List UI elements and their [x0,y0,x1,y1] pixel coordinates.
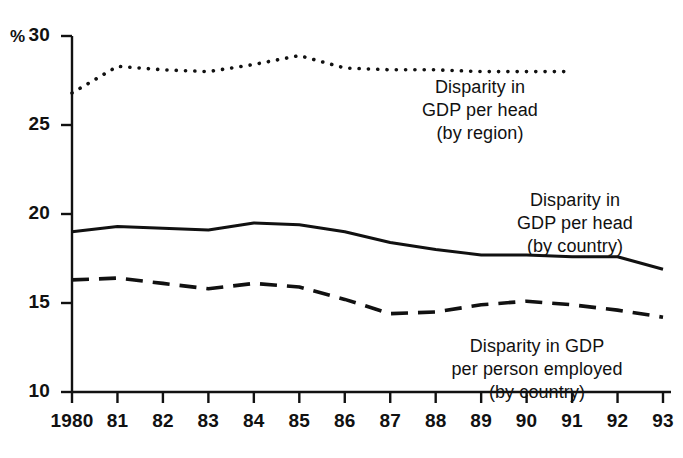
annotation-country-head-line-2: GDP per head [517,212,633,235]
annotation-region-line-3: (by region) [422,122,538,145]
x-axis-tick-label: 92 [607,410,629,432]
annotation-country-head: Disparity in GDP per head (by country) [517,189,633,258]
y-axis-tick-label: 30 [4,24,50,46]
x-axis-tick-label: 81 [107,410,129,432]
disparity-line-chart: % 3025201510 198081828384858687888990919… [0,0,683,458]
x-axis-tick-label: 88 [425,410,447,432]
x-axis-tick-label: 85 [289,410,311,432]
annotation-country-head-line-1: Disparity in [517,189,633,212]
x-axis-tick-label: 82 [152,410,174,432]
annotation-country-employed: Disparity in GDP per person employed (by… [451,335,622,404]
x-axis-tick-label: 93 [652,410,674,432]
y-axis-tick-label: 20 [4,202,50,224]
y-axis-tick-label: 15 [4,291,50,313]
annotation-region-line-1: Disparity in [422,76,538,99]
y-axis-tick-label: 10 [4,380,50,402]
annotation-country-head-line-3: (by country) [517,235,633,258]
series-line [72,278,663,317]
x-axis-tick-label: 91 [561,410,583,432]
annotation-region-line-2: GDP per head [422,99,538,122]
x-axis-tick-label: 87 [379,410,401,432]
x-axis-tick-label: 84 [243,410,265,432]
x-axis-tick-label: 1980 [50,410,93,432]
series-lines [72,56,663,318]
x-axis-tick-label: 90 [516,410,538,432]
annotation-country-employed-line-3: (by country) [451,381,622,404]
y-axis-tick-label: 25 [4,113,50,135]
x-axis-tick-label: 86 [334,410,356,432]
annotation-country-employed-line-1: Disparity in GDP [451,335,622,358]
annotation-country-employed-line-2: per person employed [451,358,622,381]
x-axis-tick-label: 83 [198,410,220,432]
x-axis-tick-label: 89 [470,410,492,432]
annotation-region: Disparity in GDP per head (by region) [422,76,538,145]
